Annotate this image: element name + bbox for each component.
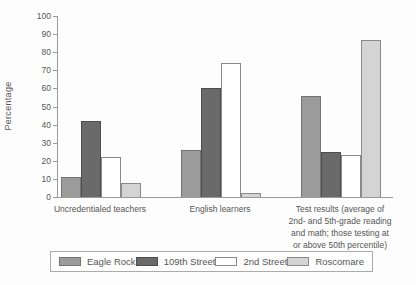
y-tick-label-0: 0 bbox=[18, 192, 51, 202]
y-tick-mark-20 bbox=[53, 161, 57, 162]
y-tick-mark-40 bbox=[53, 125, 57, 126]
legend: Eagle Rock109th Street2nd StreetRoscomar… bbox=[50, 251, 373, 272]
y-tick-mark-80 bbox=[53, 52, 57, 53]
legend-swatch-eagle-rock bbox=[59, 257, 81, 266]
bar-roscomare-group-1 bbox=[121, 183, 141, 197]
y-tick-mark-0 bbox=[53, 197, 57, 198]
y-tick-mark-10 bbox=[53, 179, 57, 180]
bar-2nd-street-group-2 bbox=[221, 63, 241, 197]
y-tick-label-20: 20 bbox=[18, 156, 51, 166]
y-tick-label-90: 90 bbox=[18, 29, 51, 39]
plot-area bbox=[57, 16, 393, 198]
bar-eagle-rock-group-1 bbox=[61, 177, 81, 197]
bar-chart-figure: Percentage 0102030405060708090100 Uncred… bbox=[0, 0, 416, 285]
legend-label: 109th Street bbox=[164, 256, 216, 267]
bar-eagle-rock-group-2 bbox=[181, 150, 201, 197]
y-tick-label-30: 30 bbox=[18, 138, 51, 148]
y-tick-label-100: 100 bbox=[18, 11, 51, 21]
legend-label: Roscomare bbox=[315, 256, 364, 267]
bar-109th-street-group-1 bbox=[81, 121, 101, 197]
y-tick-mark-90 bbox=[53, 34, 57, 35]
legend-item-109th-street: 109th Street bbox=[136, 256, 216, 267]
bar-109th-street-group-2 bbox=[201, 88, 221, 197]
bar-eagle-rock-group-3 bbox=[301, 96, 321, 197]
x-category-label-2: English learners bbox=[160, 203, 280, 215]
y-axis-title: Percentage bbox=[3, 61, 13, 151]
legend-swatch-roscomare bbox=[287, 257, 309, 266]
bar-roscomare-group-2 bbox=[241, 193, 261, 197]
legend-swatch-109th-street bbox=[136, 257, 158, 266]
y-tick-label-10: 10 bbox=[18, 174, 51, 184]
bar-2nd-street-group-1 bbox=[101, 157, 121, 197]
legend-swatch-2nd-street bbox=[215, 257, 237, 266]
bar-2nd-street-group-3 bbox=[341, 155, 361, 197]
bar-roscomare-group-3 bbox=[361, 40, 381, 197]
y-tick-mark-70 bbox=[53, 70, 57, 71]
y-tick-label-40: 40 bbox=[18, 120, 51, 130]
legend-label: 2nd Street bbox=[243, 256, 287, 267]
y-tick-label-50: 50 bbox=[18, 102, 51, 112]
y-tick-mark-60 bbox=[53, 88, 57, 89]
y-tick-mark-100 bbox=[53, 16, 57, 17]
y-tick-label-60: 60 bbox=[18, 83, 51, 93]
y-tick-mark-50 bbox=[53, 107, 57, 108]
legend-item-eagle-rock: Eagle Rock bbox=[59, 256, 136, 267]
y-tick-label-70: 70 bbox=[18, 65, 51, 75]
legend-item-2nd-street: 2nd Street bbox=[215, 256, 287, 267]
legend-item-roscomare: Roscomare bbox=[287, 256, 364, 267]
y-tick-mark-30 bbox=[53, 143, 57, 144]
bar-109th-street-group-3 bbox=[321, 152, 341, 197]
legend-label: Eagle Rock bbox=[87, 256, 136, 267]
x-category-label-1: Uncredentialed teachers bbox=[35, 203, 165, 215]
y-tick-label-80: 80 bbox=[18, 47, 51, 57]
x-category-label-3: Test results (average of 2nd- and 5th-gr… bbox=[265, 203, 415, 251]
